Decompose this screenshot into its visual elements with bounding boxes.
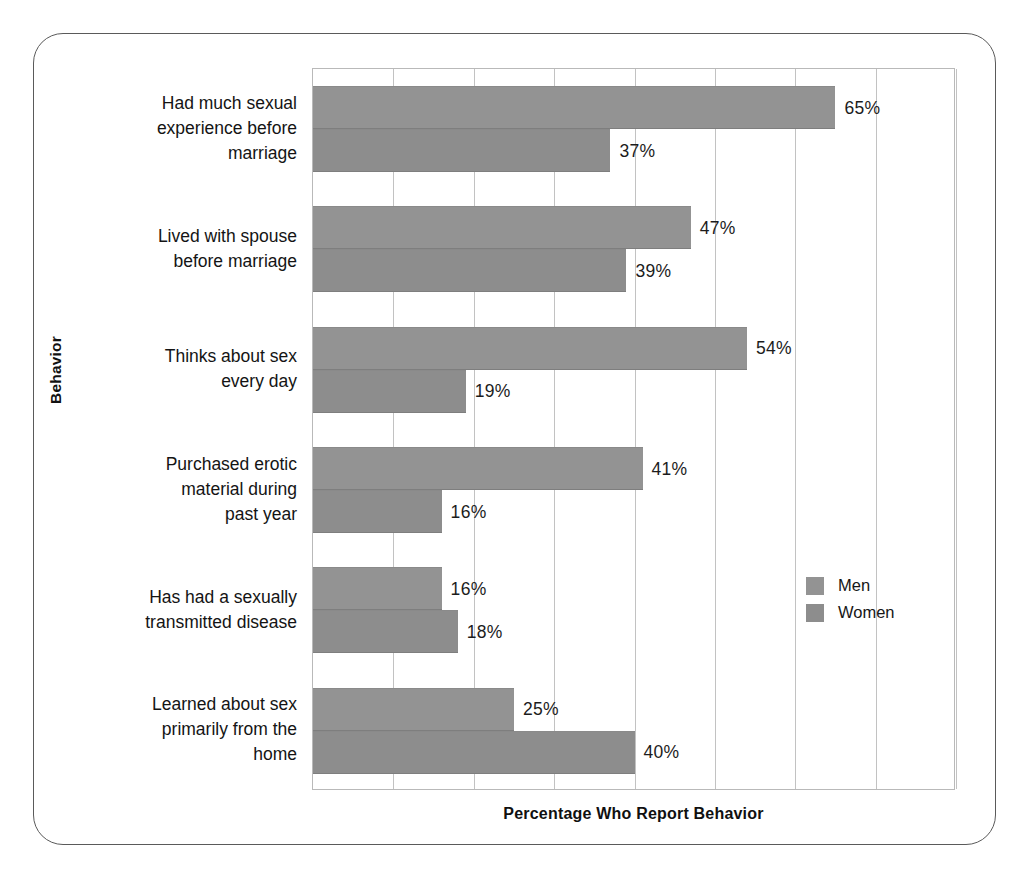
category-label-line: transmitted disease — [42, 610, 297, 635]
bar-men[interactable] — [313, 206, 691, 249]
legend-entry-women[interactable]: Women — [806, 599, 936, 626]
category-label: Purchased eroticmaterial duringpast year — [42, 452, 297, 527]
bar-value-label: 41% — [652, 458, 688, 479]
bar-row: 39% — [313, 249, 954, 292]
bar-row: 16% — [313, 490, 954, 533]
category-axis-labels: Had much sexualexperience beforemarriage… — [35, 68, 297, 790]
bar-row: 37% — [313, 129, 954, 172]
legend-entry-men[interactable]: Men — [806, 572, 936, 599]
legend-label: Men — [838, 576, 870, 595]
bar-women[interactable] — [313, 490, 442, 533]
bar-women[interactable] — [313, 610, 458, 653]
plot-area: 65%37%47%39%54%19%41%16%16%18%25%40% — [312, 68, 955, 790]
bar-women[interactable] — [313, 731, 635, 774]
bar-men[interactable] — [313, 567, 442, 610]
category-label-line: past year — [42, 502, 297, 527]
x-axis-title: Percentage Who Report Behavior — [312, 805, 955, 823]
category-label-line: Lived with spouse — [42, 224, 297, 249]
bar-value-label: 39% — [635, 260, 671, 281]
category-label: Lived with spousebefore marriage — [42, 224, 297, 274]
category-label-line: Has had a sexually — [42, 585, 297, 610]
bar-row: 65% — [313, 86, 954, 129]
bar-row: 41% — [313, 447, 954, 490]
bar-women[interactable] — [313, 129, 610, 172]
bar-value-label: 47% — [700, 217, 736, 238]
bar-group: 47%39% — [313, 189, 954, 309]
category-label-line: Purchased erotic — [42, 452, 297, 477]
category-label-line: every day — [42, 369, 297, 394]
bar-row: 40% — [313, 731, 954, 774]
category-label-line: Learned about sex — [42, 692, 297, 717]
category-label-line: marriage — [42, 141, 297, 166]
bar-value-label: 16% — [451, 501, 487, 522]
category-label-line: Thinks about sex — [42, 344, 297, 369]
bar-men[interactable] — [313, 86, 835, 129]
bar-group: 41%16% — [313, 430, 954, 550]
category-label-line: primarily from the — [42, 717, 297, 742]
bar-men[interactable] — [313, 447, 643, 490]
category-label: Learned about sexprimarily from thehome — [42, 692, 297, 767]
chart-legend: MenWomen — [806, 572, 936, 626]
bar-layer: 65%37%47%39%54%19%41%16%16%18%25%40% — [313, 69, 954, 789]
bar-men[interactable] — [313, 688, 514, 731]
legend-swatch-icon — [806, 577, 824, 595]
bar-men[interactable] — [313, 327, 747, 370]
category-label-line: home — [42, 742, 297, 767]
bar-group: 65%37% — [313, 69, 954, 189]
bar-group: 54%19% — [313, 310, 954, 430]
bar-women[interactable] — [313, 249, 626, 292]
bar-value-label: 54% — [756, 338, 792, 359]
bar-women[interactable] — [313, 370, 466, 413]
bar-row: 19% — [313, 370, 954, 413]
bar-value-label: 40% — [644, 742, 680, 763]
bar-value-label: 25% — [523, 699, 559, 720]
category-label: Has had a sexuallytransmitted disease — [42, 585, 297, 635]
bar-value-label: 19% — [475, 381, 511, 402]
bar-value-label: 18% — [467, 621, 503, 642]
category-label-line: Had much sexual — [42, 91, 297, 116]
legend-swatch-icon — [806, 604, 824, 622]
category-label-line: material during — [42, 477, 297, 502]
bar-value-label: 37% — [619, 140, 655, 161]
bar-row: 47% — [313, 206, 954, 249]
category-label-line: experience before — [42, 116, 297, 141]
bar-value-label: 16% — [451, 578, 487, 599]
category-label-line: before marriage — [42, 249, 297, 274]
category-label: Thinks about sexevery day — [42, 344, 297, 394]
bar-row: 54% — [313, 327, 954, 370]
bar-value-label: 65% — [844, 97, 880, 118]
bar-group: 25%40% — [313, 671, 954, 791]
bar-row: 25% — [313, 688, 954, 731]
category-label: Had much sexualexperience beforemarriage — [42, 91, 297, 166]
legend-label: Women — [838, 603, 895, 622]
